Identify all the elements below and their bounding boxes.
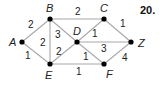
weight-label-B-C: 2 bbox=[75, 6, 81, 17]
weight-label-F-Z: 4 bbox=[122, 52, 128, 63]
node-label-A: A bbox=[8, 36, 16, 48]
problem-number: 20. bbox=[140, 4, 155, 16]
weight-label-D-F: 1 bbox=[83, 51, 89, 62]
node-Z bbox=[128, 39, 133, 44]
edge-A-B bbox=[22, 19, 50, 42]
node-label-Z: Z bbox=[137, 37, 146, 49]
node-E bbox=[47, 61, 52, 66]
weight-label-B-D: 3 bbox=[55, 29, 61, 40]
node-B bbox=[47, 16, 52, 21]
edge-C-Z bbox=[104, 19, 131, 42]
node-F bbox=[101, 61, 106, 66]
node-A bbox=[19, 39, 24, 44]
weight-label-E-D: 2 bbox=[56, 46, 62, 57]
weight-label-E-F: 1 bbox=[76, 66, 82, 77]
node-label-C: C bbox=[100, 2, 108, 14]
node-label-E: E bbox=[45, 69, 53, 81]
node-label-D: D bbox=[73, 25, 81, 37]
edge-D-F bbox=[77, 42, 104, 64]
weight-label-B-E: 2 bbox=[40, 37, 46, 48]
node-D bbox=[74, 39, 79, 44]
edge-D-C bbox=[77, 19, 104, 42]
node-label-B: B bbox=[46, 2, 53, 14]
node-label-F: F bbox=[106, 68, 114, 80]
weight-label-C-Z: 1 bbox=[120, 18, 126, 29]
node-C bbox=[101, 16, 106, 21]
weight-label-A-E: 1 bbox=[25, 50, 31, 61]
weight-label-D-Z: 3 bbox=[101, 43, 107, 54]
edge-E-D bbox=[50, 42, 77, 64]
weight-label-A-B: 2 bbox=[28, 19, 34, 30]
weight-label-D-C: 1 bbox=[92, 28, 98, 39]
